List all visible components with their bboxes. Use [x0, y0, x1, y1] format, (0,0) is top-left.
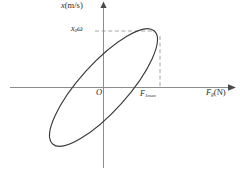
y-axis-tick-label: x0ω	[71, 25, 83, 33]
x-axis-tick-label: F1max	[140, 90, 156, 98]
x-axis-title: Fg(N)	[206, 88, 226, 97]
diagram-svg	[0, 0, 240, 171]
y-tick-subscript: 0	[75, 28, 77, 33]
y-axis-title: x(m/s)	[61, 1, 83, 10]
x-tick-subscript: 1max	[145, 93, 156, 98]
x-axis-arrow-icon	[228, 84, 236, 91]
y-axis-arrow-icon	[100, 2, 106, 9]
x-axis-units: (N)	[214, 87, 226, 97]
y-tick-suffix: ω	[77, 24, 83, 33]
x-axis-subscript: g	[211, 91, 214, 97]
figure-canvas: x(m/s) Fg(N) O x0ω F1max	[0, 0, 240, 171]
origin-label: O	[96, 88, 102, 97]
y-axis-units: (m/s)	[65, 0, 83, 10]
y-axis-variable: x	[61, 1, 65, 10]
